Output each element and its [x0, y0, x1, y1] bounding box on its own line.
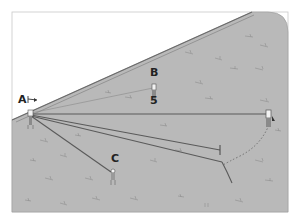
surveying-diagram: A B C 5: [0, 0, 298, 220]
label-a: A: [18, 93, 27, 106]
label-c: C: [111, 152, 119, 165]
label-b: B: [150, 66, 158, 79]
label-five: 5: [150, 94, 158, 107]
